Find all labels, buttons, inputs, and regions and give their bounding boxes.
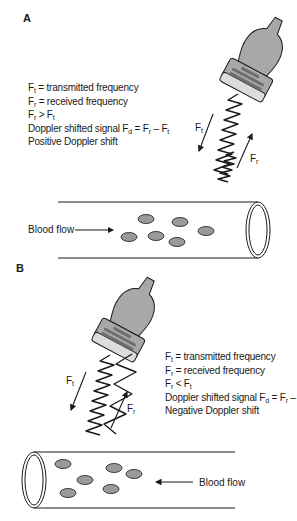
panel-b-received-wave	[104, 354, 136, 434]
panel-a-blood-cells	[121, 215, 214, 247]
panel-b-blood-vessel	[22, 452, 235, 508]
panel-b-transducer-probe-icon	[91, 268, 172, 363]
panel-b-transmitted-wave	[86, 355, 114, 435]
panel-a-transducer-probe-icon	[219, 8, 297, 103]
doppler-diagram-graphics	[0, 0, 297, 521]
panel-b-fr-arrow-icon	[111, 392, 127, 428]
panel-b-ft-arrow-icon	[71, 372, 86, 410]
panel-b-blood-cells	[55, 460, 142, 498]
panel-a-ft-arrow-icon	[199, 114, 213, 151]
panel-a-fr-arrow-icon	[237, 134, 252, 168]
